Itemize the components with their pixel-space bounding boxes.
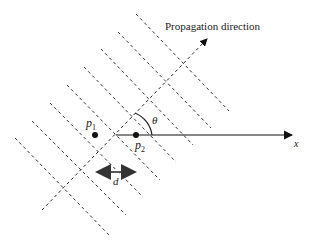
wavefronts xyxy=(15,14,229,235)
wavefront-line xyxy=(84,67,176,162)
point-p2-label: p2 xyxy=(135,138,145,154)
distance-label: d xyxy=(113,175,119,187)
wavefront-line xyxy=(15,138,109,235)
point-p1-dot xyxy=(92,132,98,138)
plane-wave-diagram xyxy=(0,0,315,248)
wavefront-line xyxy=(101,49,193,145)
wavefront-line xyxy=(32,121,126,215)
theta-angle-arc xyxy=(135,113,152,135)
propagation-direction-label: Propagation direction xyxy=(165,20,260,32)
wavefront-line xyxy=(118,32,211,128)
propagation-direction-arrow xyxy=(42,39,207,210)
theta-label: θ xyxy=(152,114,157,126)
point-p1-label: p1 xyxy=(86,116,96,132)
wavefront-line xyxy=(67,85,160,180)
x-axis-label: x xyxy=(294,138,298,149)
wavefront-line xyxy=(50,103,143,197)
